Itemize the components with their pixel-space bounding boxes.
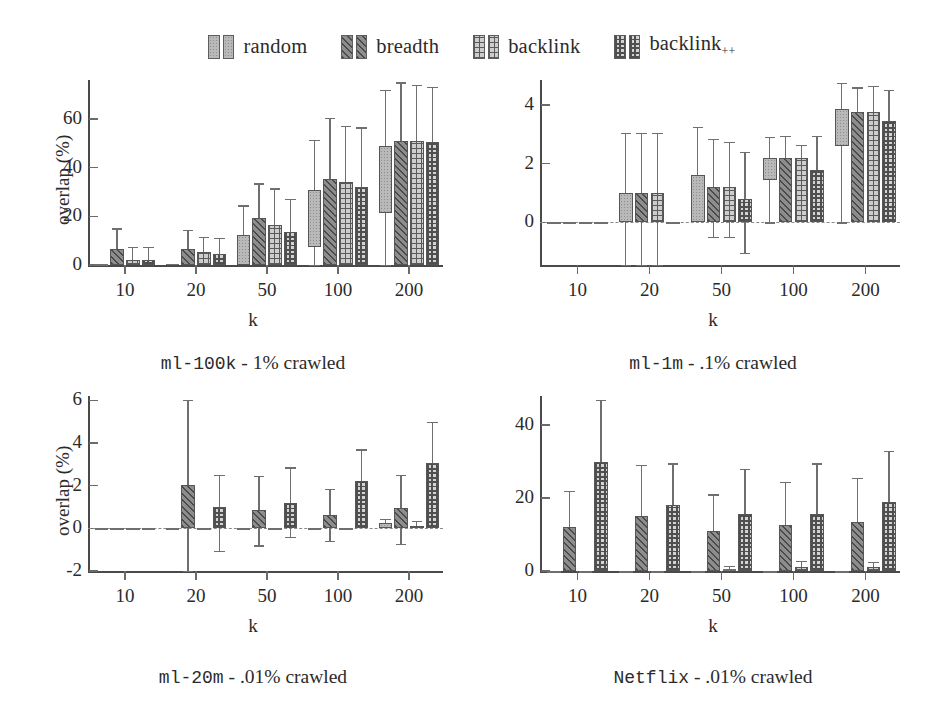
bar-random-k50 <box>237 528 251 530</box>
bar-breadth-k50 <box>707 187 721 222</box>
error-bar-cap <box>396 475 407 476</box>
error-bar-cap <box>837 83 848 84</box>
bar-backlinkpp-k100 <box>355 187 369 265</box>
bar-breadth-k20 <box>181 485 195 529</box>
x-tick <box>124 265 125 274</box>
error-bar-cap <box>325 118 336 119</box>
y-tick-label: 40 <box>474 413 534 435</box>
bar-breadth-k10 <box>110 249 124 265</box>
bar-backlinkpp-k20 <box>213 254 227 265</box>
bar-backlink-k10 <box>126 260 140 265</box>
y-tick-label: 0 <box>22 253 82 275</box>
chart-panel-netflix: 02040102050100200kNetflix - .01% crawled <box>498 388 928 696</box>
y-tick <box>89 118 98 119</box>
error-bar-cap <box>780 136 791 137</box>
x-tick-label: 50 <box>227 585 307 607</box>
bar-breadth-k100 <box>323 515 337 528</box>
y-axis-title: overlap (%) <box>52 134 74 224</box>
error-bar-cap <box>596 400 607 401</box>
error-bar-cap <box>740 253 751 254</box>
error-bar-cap <box>183 400 194 401</box>
bar-backlink-k20 <box>197 528 211 530</box>
bar-backlinkpp-k20 <box>213 507 227 528</box>
legend-swatch-icon <box>473 35 499 57</box>
bar-backlink-k20 <box>651 193 665 222</box>
x-tick-label: 200 <box>825 279 905 301</box>
caption-dataset-name: ml-100k <box>161 354 237 374</box>
bar-breadth-k10 <box>563 527 577 571</box>
chart-panel-ml-1m: 024102050100200kml-1m - .1% crawled <box>498 72 928 382</box>
error-bar-cap <box>852 478 863 479</box>
bar-random-k50 <box>691 571 705 573</box>
x-tick <box>865 265 866 274</box>
error-bar-cap <box>765 222 776 223</box>
x-tick <box>793 265 794 274</box>
caption-dataset-name: Netflix <box>613 668 689 688</box>
y-tick <box>89 400 98 401</box>
legend-swatch-icon <box>208 35 234 57</box>
bar-backlinkpp-k20 <box>666 505 680 571</box>
bar-backlinkpp-k50 <box>738 514 752 571</box>
x-axis-title: k <box>38 309 468 331</box>
x-tick-label: 10 <box>537 585 617 607</box>
error-bar-cap <box>812 463 823 464</box>
error-bar-cap <box>214 238 225 239</box>
error-bar-cap <box>183 571 194 572</box>
error-bar-cap <box>693 127 704 128</box>
error-bar-cap <box>780 482 791 483</box>
bar-breadth-k20 <box>181 249 195 265</box>
error-bar-cap <box>412 521 423 522</box>
error-bar-cap <box>724 566 735 567</box>
error-bar <box>841 83 842 222</box>
legend-label: backlink <box>508 35 580 58</box>
error-bar-cap <box>427 422 438 423</box>
x-tick <box>408 571 409 580</box>
bar-backlinkpp-k10 <box>594 462 608 571</box>
x-tick-label: 20 <box>156 279 236 301</box>
x-tick <box>337 265 338 274</box>
error-bar-cap <box>270 188 281 189</box>
x-tick <box>408 265 409 274</box>
y-axis <box>88 80 90 265</box>
error-bar-cap <box>708 494 719 495</box>
plot-area <box>88 80 443 265</box>
error-bar-cap <box>724 237 735 238</box>
y-tick <box>89 442 98 443</box>
bar-backlink-k200 <box>867 112 881 222</box>
error-bar-cap <box>325 541 336 542</box>
bar-backlink-k200 <box>410 526 424 529</box>
error-bar-cap <box>740 469 751 470</box>
bar-breadth-k20 <box>635 516 649 571</box>
bar-backlinkpp-k10 <box>142 528 156 530</box>
bar-random-k200 <box>835 109 849 146</box>
x-tick-label: 100 <box>298 279 378 301</box>
x-tick <box>195 571 196 580</box>
x-tick-label: 200 <box>369 585 449 607</box>
error-bar-cap <box>796 561 807 562</box>
error-bar-cap <box>396 544 407 545</box>
x-tick-label: 100 <box>753 585 833 607</box>
error-bar-cap <box>668 463 679 464</box>
error-bar-cap <box>812 136 823 137</box>
bar-breadth-k20 <box>635 193 649 222</box>
error-bar-cap <box>309 265 320 266</box>
x-tick-label: 20 <box>609 279 689 301</box>
error-bar-cap <box>285 199 296 200</box>
x-tick <box>337 571 338 580</box>
chart-caption: ml-1m - .1% crawled <box>498 352 928 374</box>
bar-random-k20 <box>166 264 180 266</box>
bar-random-k20 <box>619 193 633 222</box>
caption-crawl-rate: - .01% crawled <box>224 666 347 687</box>
x-tick-label: 200 <box>369 279 449 301</box>
bar-breadth-k200 <box>851 112 865 222</box>
x-tick-label: 10 <box>85 585 165 607</box>
bar-breadth-k200 <box>851 522 865 571</box>
x-tick-label: 10 <box>537 279 617 301</box>
bar-breadth-k200 <box>394 508 408 528</box>
error-bar-cap <box>380 90 391 91</box>
error-bar-cap <box>564 491 575 492</box>
error-bar-cap <box>796 145 807 146</box>
bar-random-k20 <box>619 571 633 573</box>
y-tick-label: 0 <box>474 210 534 232</box>
bar-breadth-k100 <box>779 158 793 223</box>
